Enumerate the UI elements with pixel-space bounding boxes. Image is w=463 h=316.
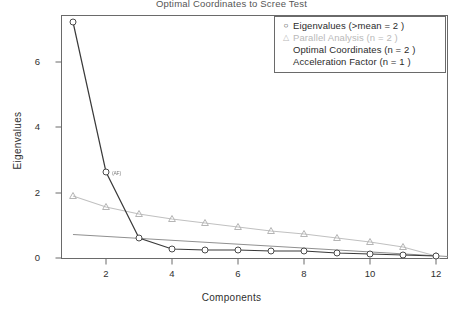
legend-item: ○ Eigenvalues (>mean = 2 ) (279, 20, 441, 32)
page-title: Optimal Coordinates to Scree Test (0, 0, 463, 9)
x-tick-label: 8 (291, 268, 317, 279)
x-axis-label: Components (0, 292, 463, 303)
acceleration-factor-annotation: (AF) (112, 170, 121, 176)
y-tick-label: 0 (24, 252, 40, 263)
x-tick-label: 6 (225, 268, 251, 279)
legend-item-label: Eigenvalues (>mean = 2 ) (293, 20, 404, 32)
x-tick-label: 12 (423, 268, 449, 279)
x-tick-label: 10 (357, 268, 383, 279)
y-axis-ticks (56, 62, 62, 258)
legend-item-label: Optimal Coordinates (n = 2 ) (293, 44, 415, 56)
y-axis-label: Eigenvalues (12, 91, 23, 191)
circle-marker-icon: ○ (279, 20, 293, 32)
legend-item: Optimal Coordinates (n = 2 ) (279, 44, 441, 56)
legend-item: Acceleration Factor (n = 1 ) (279, 56, 441, 68)
x-tick-label: 4 (159, 268, 185, 279)
legend-item-label: Parallel Analysis (n = 2 ) (293, 32, 398, 44)
y-tick-label: 6 (24, 56, 40, 67)
triangle-marker-icon: △ (279, 32, 293, 44)
legend: ○ Eigenvalues (>mean = 2 ) △ Parallel An… (274, 16, 446, 73)
x-axis-ticks (106, 259, 436, 265)
y-tick-label: 4 (24, 121, 40, 132)
legend-item: △ Parallel Analysis (n = 2 ) (279, 32, 441, 44)
scree-plot: Optimal Coordinates to Scree Test Compon… (0, 0, 463, 316)
y-tick-label: 2 (24, 187, 40, 198)
legend-item-label: Acceleration Factor (n = 1 ) (293, 56, 411, 68)
x-tick-label: 2 (93, 268, 119, 279)
series-parallel-analysis (70, 193, 440, 259)
